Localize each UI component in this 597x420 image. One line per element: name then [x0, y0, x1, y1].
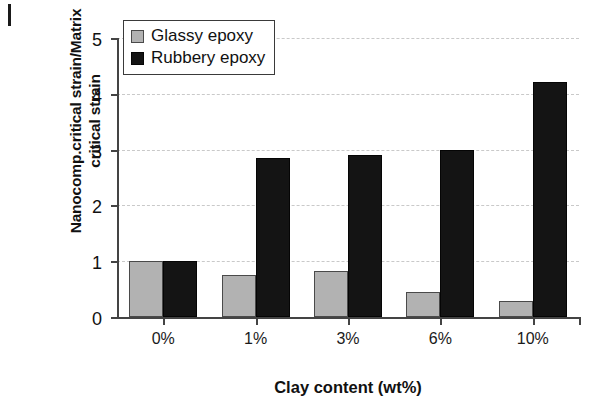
legend-item-glassy: Glassy epoxy	[131, 25, 265, 47]
gridline	[117, 150, 579, 151]
y-axis-tick-label: 1	[92, 253, 102, 274]
x-axis-tick-end	[579, 317, 581, 325]
y-axis-tick-label: 5	[92, 30, 102, 51]
gridline	[117, 94, 579, 95]
legend-label: Glassy epoxy	[151, 26, 253, 46]
bar-chart-figure: Nanocomp.critical strain/Matrix critical…	[0, 0, 597, 420]
bar-glassy-6pct	[406, 292, 440, 317]
x-axis-tick-label: 0%	[152, 330, 175, 348]
y-axis-tick-label: 3	[92, 141, 102, 162]
legend-item-rubbery: Rubbery epoxy	[131, 47, 265, 69]
x-axis-tick-label: 1%	[244, 330, 267, 348]
y-axis-line	[117, 38, 119, 317]
x-axis-title: Clay content (wt%)	[117, 378, 579, 397]
x-axis-tick-label: 10%	[517, 330, 549, 348]
bar-rubbery-3pct	[348, 155, 382, 317]
bar-glassy-1pct	[222, 275, 256, 317]
bar-rubbery-10pct	[533, 82, 567, 317]
bar-glassy-0pct	[129, 261, 163, 317]
x-axis-line	[117, 317, 579, 319]
bar-glassy-10pct	[499, 301, 533, 317]
y-axis-tick-label: 4	[92, 85, 102, 106]
legend-swatch-rubbery-icon	[131, 52, 144, 65]
bar-rubbery-1pct	[256, 158, 290, 317]
y-axis-title: Nanocomp.critical strain/Matrix critical…	[59, 0, 111, 266]
y-axis-tick-label: 0	[92, 309, 102, 330]
legend-label: Rubbery epoxy	[151, 48, 265, 68]
scan-artifact-mark	[8, 4, 11, 26]
y-axis-tick-label: 2	[92, 197, 102, 218]
bar-glassy-3pct	[314, 271, 348, 317]
plot-area: 012345 0%1%3%6%10%	[117, 38, 579, 317]
legend-swatch-glassy-icon	[131, 30, 144, 43]
x-axis-tick-label: 3%	[336, 330, 359, 348]
bar-rubbery-0pct	[163, 261, 197, 317]
chart-legend: Glassy epoxyRubbery epoxy	[123, 20, 275, 75]
bar-rubbery-6pct	[440, 150, 474, 317]
x-axis-tick-label: 6%	[429, 330, 452, 348]
